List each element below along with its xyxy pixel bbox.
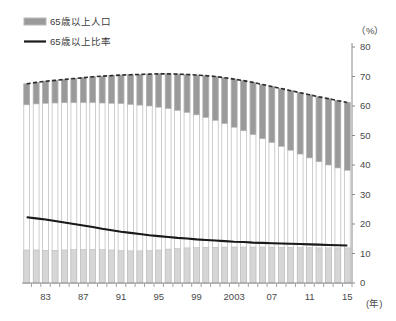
bar-segment-elderly	[156, 74, 162, 107]
bar-segment-elderly	[62, 79, 68, 102]
legend-label-population: 65歳以上人口	[50, 16, 111, 27]
x-axis-tick-label: 95	[153, 291, 164, 302]
bar-segment-base	[175, 248, 181, 283]
bar-segment-elderly	[250, 82, 256, 134]
x-axis-unit-label: (年)	[366, 298, 382, 309]
bar-segment-base	[184, 248, 190, 283]
bar-segment-elderly	[288, 91, 294, 151]
chart-container: 65歳以上人口 65歳以上比率 （%） 01020304050607080 83…	[0, 0, 396, 321]
x-axis-tick-label: 2003	[224, 291, 245, 302]
bar-segment-base	[71, 250, 77, 283]
x-axis-tick-label: 91	[116, 291, 127, 302]
y-axis-tick-label: 80	[360, 41, 371, 52]
bar-segment-elderly	[71, 79, 77, 103]
legend-bar-swatch	[24, 18, 46, 25]
bar-segment-elderly	[43, 81, 49, 103]
y-axis-tick-label: 40	[360, 159, 371, 170]
y-axis-tick-label: 60	[360, 100, 371, 111]
bar-segment-elderly	[99, 76, 105, 103]
bar-segment-base	[194, 248, 200, 283]
x-axis-tick-label: 15	[342, 291, 353, 302]
bar-segment-elderly	[109, 76, 115, 104]
bar-segment-elderly	[194, 75, 200, 115]
bar-segment-base	[99, 250, 105, 283]
bar-segment-elderly	[137, 74, 143, 105]
y-axis-tick-label: 10	[360, 248, 371, 259]
bar-series-group	[24, 74, 350, 283]
bar-segment-base	[260, 247, 266, 283]
legend-label-ratio: 65歳以上比率	[50, 36, 111, 47]
bar-segment-elderly	[326, 99, 332, 165]
bar-segment-base	[212, 247, 218, 283]
bar-segment-elderly	[80, 78, 86, 103]
y-axis-unit-label: （%）	[356, 25, 384, 36]
bar-segment-elderly	[165, 74, 171, 109]
x-axis-tick-label: 83	[40, 291, 51, 302]
bar-segment-elderly	[175, 74, 181, 110]
bar-segment-elderly	[52, 80, 58, 103]
bar-segment-base	[203, 247, 209, 283]
y-axis-tick-label: 0	[360, 277, 365, 288]
y-axis: 01020304050607080	[352, 41, 371, 288]
bar-segment-base	[33, 250, 39, 283]
bar-segment-elderly	[335, 101, 341, 168]
y-axis-tick-label: 30	[360, 189, 371, 200]
x-axis-tick-label: 87	[78, 291, 89, 302]
bar-segment-base	[118, 251, 124, 283]
bar-segment-elderly	[297, 93, 303, 154]
bar-segment-base	[80, 249, 86, 283]
bar-segment-elderly	[278, 89, 284, 147]
bar-segment-base	[269, 247, 275, 283]
bar-segment-elderly	[33, 82, 39, 104]
bar-segment-elderly	[307, 95, 313, 158]
bar-segment-elderly	[184, 74, 190, 112]
bar-segment-base	[62, 250, 68, 283]
bar-segment-base	[90, 249, 96, 283]
bar-segment-elderly	[241, 81, 247, 131]
bar-segment-base	[307, 248, 313, 283]
bar-segment-elderly	[231, 79, 237, 127]
bar-segment-elderly	[316, 97, 322, 162]
bar-segment-base	[250, 247, 256, 283]
bar-segment-base	[335, 248, 341, 283]
bar-segment-base	[316, 248, 322, 283]
bar-segment-base	[109, 250, 115, 283]
y-axis-tick-label: 70	[360, 71, 371, 82]
bar-segment-base	[52, 250, 58, 283]
bar-segment-base	[137, 251, 143, 283]
bar-segment-elderly	[344, 102, 350, 170]
bar-segment-base	[326, 248, 332, 283]
population-ratio-chart: 65歳以上人口 65歳以上比率 （%） 01020304050607080 83…	[0, 0, 396, 321]
bar-segment-base	[344, 248, 350, 283]
bar-segment-base	[241, 247, 247, 283]
bar-segment-elderly	[90, 77, 96, 103]
bar-segment-base	[278, 247, 284, 283]
bar-segment-elderly	[212, 77, 218, 121]
bar-segment-base	[146, 251, 152, 283]
bar-segment-elderly	[269, 87, 275, 143]
x-axis-tick-label: 99	[191, 291, 202, 302]
bar-segment-elderly	[118, 75, 124, 104]
bar-segment-base	[297, 248, 303, 283]
bar-segment-base	[43, 250, 49, 283]
bar-segment-base	[128, 251, 134, 283]
bar-segment-base	[222, 247, 228, 283]
bar-segment-elderly	[146, 74, 152, 106]
chart-legend: 65歳以上人口 65歳以上比率	[24, 16, 111, 47]
bar-segment-base	[288, 247, 294, 283]
bar-segment-elderly	[260, 84, 266, 138]
y-axis-tick-label: 20	[360, 218, 371, 229]
bar-segment-elderly	[128, 75, 134, 105]
bar-segment-elderly	[222, 78, 228, 124]
y-axis-tick-label: 50	[360, 130, 371, 141]
bar-segment-elderly	[24, 84, 30, 105]
x-axis-tick-label: 07	[267, 291, 278, 302]
bar-segment-base	[156, 250, 162, 283]
bar-segment-base	[231, 247, 237, 283]
bar-segment-elderly	[203, 76, 209, 118]
x-axis-tick-label: 11	[305, 291, 315, 302]
x-axis: 83879195992003071115	[22, 283, 353, 302]
bar-segment-base	[165, 249, 171, 283]
bar-segment-base	[24, 250, 30, 283]
